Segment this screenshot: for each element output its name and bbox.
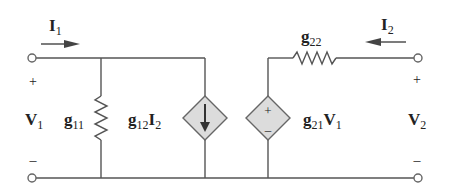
g21-v1-label: g21V1 xyxy=(303,110,342,132)
dependent-current-source xyxy=(183,96,227,140)
v1-label: V1 xyxy=(25,110,43,132)
v2-label: V2 xyxy=(408,110,426,132)
i2-arrow-icon xyxy=(365,38,406,46)
dependent-voltage-source: + – xyxy=(246,96,290,140)
port2-bottom-terminal xyxy=(414,174,422,182)
circuit-diagram: + – I1 I2 + V1 – + V2 – g11 g22 g12I2 g2… xyxy=(0,0,453,187)
g12-i2-label: g12I2 xyxy=(128,110,161,132)
i2-label: I2 xyxy=(381,15,394,37)
port2-plus: + xyxy=(413,72,421,87)
port1-top-terminal xyxy=(28,54,36,62)
wires xyxy=(36,52,414,178)
port1-minus: – xyxy=(29,153,38,168)
vs-plus: + xyxy=(264,103,271,118)
g22-label: g22 xyxy=(301,27,322,49)
port2-top-terminal xyxy=(414,54,422,62)
vs-minus: – xyxy=(264,122,272,137)
port2-minus: – xyxy=(413,153,422,168)
g11-label: g11 xyxy=(64,110,84,132)
i1-arrow-icon xyxy=(41,40,80,48)
i1-label: I1 xyxy=(49,16,62,38)
port1-bottom-terminal xyxy=(28,174,36,182)
g22-resistor xyxy=(293,52,336,64)
g11-resistor xyxy=(95,96,107,140)
port1-plus: + xyxy=(29,74,37,89)
